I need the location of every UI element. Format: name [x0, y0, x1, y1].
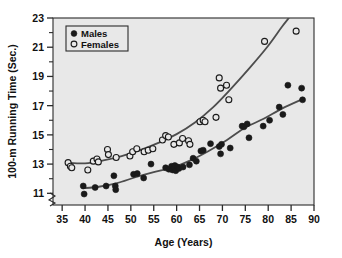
data-point-females: [180, 136, 186, 142]
data-point-males: [267, 117, 273, 123]
data-point-males: [92, 184, 98, 190]
legend-marker-females: [71, 41, 77, 47]
x-tick-label: 40: [79, 213, 91, 225]
data-point-females: [69, 165, 75, 171]
legend-marker-males: [71, 31, 77, 37]
data-point-males: [208, 141, 214, 147]
x-tick-label: 90: [308, 213, 320, 225]
y-tick-label: 21: [32, 41, 44, 53]
data-point-females: [218, 85, 224, 91]
data-point-males: [285, 82, 291, 88]
data-point-males: [113, 187, 119, 193]
chart-figure: 11131517192123354045505560657075808590Ag…: [0, 0, 342, 258]
data-point-males: [80, 183, 86, 189]
data-point-females: [113, 155, 119, 161]
x-tick-label: 60: [171, 213, 183, 225]
data-point-males: [300, 97, 306, 103]
x-tick-label: 75: [239, 213, 251, 225]
data-point-males: [141, 175, 147, 181]
data-point-males: [219, 141, 225, 147]
data-point-females: [85, 167, 91, 173]
data-point-females: [293, 28, 299, 34]
data-point-females: [216, 75, 222, 81]
data-point-males: [200, 147, 206, 153]
legend-label-males: Males: [81, 28, 107, 39]
x-tick-label: 35: [56, 213, 68, 225]
data-point-males: [276, 104, 282, 110]
y-tick-label: 23: [32, 12, 44, 24]
data-point-females: [105, 152, 111, 158]
y-tick-label: 11: [33, 187, 44, 199]
x-tick-label: 85: [285, 213, 297, 225]
data-point-males: [246, 135, 252, 141]
data-point-females: [202, 119, 208, 125]
y-tick-label: 19: [32, 70, 44, 82]
data-point-females: [213, 114, 219, 120]
data-point-males: [299, 85, 305, 91]
data-point-males: [227, 145, 233, 151]
data-point-males: [186, 162, 192, 168]
data-point-females: [224, 82, 230, 88]
x-tick-label: 55: [148, 213, 160, 225]
legend-label-females: Females: [81, 39, 119, 50]
data-point-males: [134, 171, 140, 177]
x-tick-label: 65: [194, 213, 206, 225]
data-point-males: [180, 164, 186, 170]
y-tick-label: 13: [32, 158, 44, 170]
data-point-males: [260, 123, 266, 129]
data-point-females: [134, 146, 140, 152]
data-point-males: [111, 173, 117, 179]
data-point-females: [165, 134, 171, 140]
y-tick-label: 15: [32, 129, 44, 141]
data-point-males: [81, 191, 87, 197]
data-point-females: [187, 141, 193, 147]
data-point-males: [193, 158, 199, 164]
data-point-females: [150, 146, 156, 152]
data-point-females: [262, 38, 268, 44]
scatter-plot: 11131517192123354045505560657075808590Ag…: [0, 0, 342, 258]
x-tick-label: 45: [102, 213, 114, 225]
x-tick-label: 50: [125, 213, 137, 225]
x-tick-label: 70: [217, 213, 229, 225]
data-point-females: [226, 97, 232, 103]
data-point-males: [280, 111, 286, 117]
y-axis-title: 100-m Running Time (Sec.): [6, 44, 18, 179]
data-point-males: [244, 121, 250, 127]
x-axis-title: Age (Years): [155, 236, 213, 248]
x-tick-label: 80: [262, 213, 274, 225]
data-point-females: [95, 159, 101, 165]
data-point-males: [218, 151, 224, 157]
data-point-males: [148, 161, 154, 167]
y-tick-label: 17: [32, 100, 44, 112]
data-point-males: [103, 183, 109, 189]
legend: MalesFemales: [66, 26, 128, 51]
